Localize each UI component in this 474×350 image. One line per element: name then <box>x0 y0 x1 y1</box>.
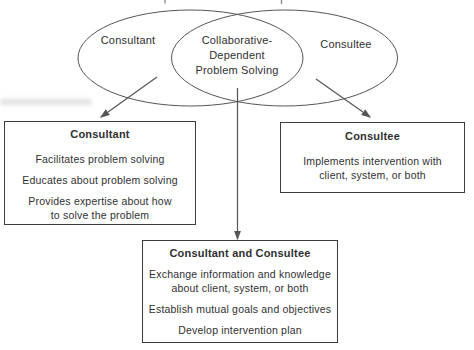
box-item: Establish mutual goals and objectives <box>143 302 337 316</box>
consultee-box-title: Consultee <box>281 130 464 143</box>
box-item: Facilitates problem solving <box>5 152 195 166</box>
consultee-box: Consultee Implements intervention with c… <box>280 122 465 193</box>
arrow-to-consultant-box-icon <box>101 77 157 117</box>
consultant-and-consultee-box: Consultant and Consultee Exchange inform… <box>142 240 338 343</box>
box-item: Develop intervention plan <box>143 323 337 337</box>
consultant-box: Consultant Facilitates problem solving E… <box>4 121 196 225</box>
venn-label-collaborative-dependent: Collaborative- Dependent Problem Solving <box>177 33 297 78</box>
box-item: Implements intervention with client, sys… <box>281 154 464 182</box>
scan-artifact <box>0 99 92 105</box>
consultant-box-title: Consultant <box>5 128 195 141</box>
arrow-to-consultee-box-icon <box>316 79 370 117</box>
box-item: Educates about problem solving <box>5 173 195 187</box>
venn-label-consultant: Consultant <box>68 33 188 48</box>
consultant-and-consultee-box-title: Consultant and Consultee <box>143 247 337 260</box>
venn-label-consultee: Consultee <box>286 37 406 52</box>
box-item: Provides expertise about how to solve th… <box>5 194 195 222</box>
diagram-canvas: Consultant Collaborative- Dependent Prob… <box>0 0 474 350</box>
box-item: Exchange information and knowledge about… <box>143 267 337 295</box>
